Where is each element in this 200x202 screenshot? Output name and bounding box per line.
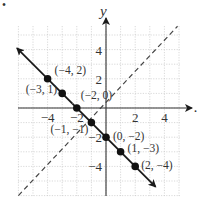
data-point — [44, 75, 52, 83]
corner-mark: • — [2, 0, 6, 11]
x-tick-label: 4 — [161, 110, 168, 125]
y-tick-label: 2 — [96, 72, 103, 87]
y-axis-label: y — [98, 3, 107, 19]
x-tick-label: 2 — [132, 110, 139, 125]
data-point — [117, 148, 125, 156]
point-label: (−1, −1) — [51, 123, 89, 136]
y-tick-label: 4 — [96, 43, 103, 58]
point-label: (2, −4) — [141, 159, 173, 172]
data-point — [88, 119, 96, 127]
x-axis-label: . — [194, 99, 198, 115]
point-label: (−2, 0) — [81, 89, 113, 102]
data-point — [131, 163, 139, 171]
data-point — [102, 133, 110, 141]
point-label: (−3, 1) — [26, 83, 58, 96]
point-label: (−4, 2) — [55, 64, 87, 77]
y-tick-label: −4 — [88, 159, 102, 174]
data-point — [58, 90, 66, 98]
coordinate-plane: −4−22442−2−4 (−4, 2)(−3, 1)(−2, 0)(−1, −… — [0, 0, 200, 202]
y-tick-label: −2 — [88, 130, 102, 145]
point-label: (1, −3) — [128, 142, 160, 155]
